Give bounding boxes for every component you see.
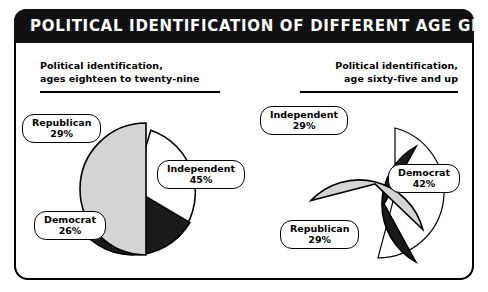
chart-figure: POLITICAL IDENTIFICATION OF DIFFERENT AG… bbox=[14, 9, 474, 280]
label-republican-right-pct: 29% bbox=[290, 234, 349, 245]
panel-right-heading-line1: Political identification, bbox=[335, 59, 458, 72]
figure-title-bar: POLITICAL IDENTIFICATION OF DIFFERENT AG… bbox=[14, 9, 474, 43]
label-republican-right: Republican 29% bbox=[280, 220, 359, 249]
figure-title: POLITICAL IDENTIFICATION OF DIFFERENT AG… bbox=[14, 17, 474, 35]
panel-age-18-29: Political identification, ages eighteen … bbox=[14, 43, 250, 278]
label-democrat-left-name: Democrat bbox=[44, 214, 96, 225]
panel-left-heading-line1: Political identification, bbox=[40, 59, 200, 72]
label-democrat-right-pct: 42% bbox=[398, 178, 450, 189]
panel-left-rule bbox=[40, 91, 220, 93]
panel-right-heading-line2: age sixty-five and up bbox=[335, 72, 458, 85]
panel-right-heading: Political identification, age sixty-five… bbox=[335, 59, 458, 85]
label-democrat-right: Democrat 42% bbox=[388, 164, 460, 193]
label-republican-left: Republican 29% bbox=[22, 114, 101, 143]
label-republican-left-pct: 29% bbox=[32, 128, 91, 139]
label-independent-left-name: Independent bbox=[167, 163, 235, 174]
panel-right-rule bbox=[300, 91, 458, 93]
label-democrat-right-name: Democrat bbox=[398, 167, 450, 178]
panel-left-heading: Political identification, ages eighteen … bbox=[40, 59, 200, 85]
label-democrat-left-pct: 26% bbox=[44, 225, 96, 236]
label-democrat-left: Democrat 26% bbox=[34, 211, 106, 240]
label-independent-right-pct: 29% bbox=[270, 120, 338, 131]
label-independent-right-name: Independent bbox=[270, 109, 338, 120]
label-republican-right-name: Republican bbox=[290, 223, 349, 234]
label-republican-left-name: Republican bbox=[32, 117, 91, 128]
panel-age-65-up: Political identification, age sixty-five… bbox=[250, 43, 474, 278]
label-independent-left: Independent 45% bbox=[157, 160, 245, 189]
label-independent-left-pct: 45% bbox=[167, 174, 235, 185]
panel-left-heading-line2: ages eighteen to twenty-nine bbox=[40, 72, 200, 85]
label-independent-right: Independent 29% bbox=[260, 106, 348, 135]
